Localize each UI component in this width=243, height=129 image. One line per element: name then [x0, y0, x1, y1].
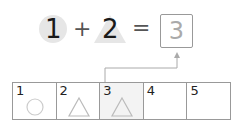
triangle-icon	[57, 83, 101, 121]
circle-icon	[13, 83, 57, 121]
number-grid: 1 2 3 4 5	[12, 82, 231, 120]
grid-cell-5: 5	[187, 83, 230, 119]
cell-number: 4	[147, 84, 155, 97]
triangle-icon	[100, 83, 144, 121]
grid-cell-2: 2	[57, 83, 101, 119]
cell-number: 5	[190, 84, 198, 97]
grid-cell-3: 3	[100, 83, 144, 119]
arrowhead-icon	[174, 52, 180, 58]
grid-cell-1: 1	[13, 83, 57, 119]
grid-cell-4: 4	[144, 83, 188, 119]
